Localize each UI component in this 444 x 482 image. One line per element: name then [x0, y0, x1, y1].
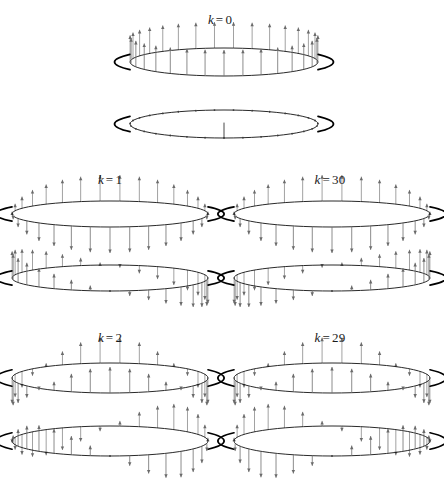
arrow-head-icon	[422, 223, 425, 227]
ring-node-dot	[277, 135, 279, 137]
arrow-head-icon	[238, 303, 241, 307]
ring-node-dot	[307, 117, 309, 119]
ring-ellipse	[234, 265, 430, 291]
arrow-head-icon	[360, 258, 363, 262]
arrow-head-icon	[156, 351, 159, 355]
panel-label-variable: k	[98, 172, 104, 187]
arrow-head-icon	[147, 246, 150, 250]
ring-node-dot	[269, 111, 271, 113]
arrow-head-icon	[369, 246, 372, 250]
arrow-head-icon	[179, 474, 182, 478]
arrow-head-icon	[164, 474, 167, 478]
ring-cap-right	[430, 271, 444, 285]
arrow-head-icon	[350, 249, 353, 253]
ring-diagram-canvas	[0, 0, 444, 482]
ring-node-dot	[132, 120, 134, 122]
ring-ellipse	[12, 426, 208, 456]
arrow-head-icon	[143, 43, 146, 47]
arrow-head-icon	[179, 237, 182, 241]
arrow-head-icon	[138, 412, 141, 416]
arrow-head-icon	[20, 197, 23, 201]
arrow-head-icon	[394, 184, 397, 188]
panel-k2-view2	[0, 404, 224, 478]
arrow-head-icon	[172, 404, 175, 408]
arrow-head-icon	[292, 246, 295, 250]
arrow-head-icon	[203, 425, 206, 429]
arrow-head-icon	[128, 249, 131, 253]
arrow-head-icon	[386, 242, 389, 246]
arrow-head-icon	[70, 374, 73, 378]
arrow-head-icon	[13, 250, 16, 254]
arrow-head-icon	[108, 249, 111, 253]
arrow-head-icon	[413, 426, 416, 430]
arrow-head-icon	[310, 41, 313, 45]
arrow-head-icon	[413, 394, 416, 398]
arrow-head-icon	[16, 429, 19, 433]
arrow-head-icon	[427, 216, 430, 220]
arrow-head-icon	[128, 462, 131, 466]
arrow-head-icon	[276, 47, 279, 51]
panel-label-k29: k=29	[270, 330, 390, 346]
arrow-head-icon	[292, 470, 295, 474]
ring-node-dot	[149, 115, 151, 117]
panel-k0-view2	[115, 109, 334, 139]
arrow-head-icon	[44, 251, 47, 255]
arrow-head-icon	[98, 428, 101, 432]
arrow-head-icon	[164, 300, 167, 304]
arrow-head-icon	[138, 270, 141, 274]
panel-k2-view1	[0, 338, 224, 406]
ring-node-dot	[331, 455, 333, 457]
ring-modes-figure: k=0 k=1 k=30 k=2 k=29	[0, 0, 444, 482]
arrow-head-icon	[200, 399, 203, 403]
ring-ellipse	[12, 201, 208, 227]
arrow-head-icon	[418, 197, 421, 201]
arrow-head-icon	[369, 280, 372, 284]
arrow-head-icon	[394, 251, 397, 255]
arrow-head-icon	[235, 296, 238, 300]
ring-cap-right	[318, 54, 333, 69]
arrow-head-icon	[205, 216, 208, 220]
arrow-head-icon	[172, 184, 175, 188]
ring-ellipse	[234, 201, 430, 227]
arrow-head-icon	[52, 274, 55, 278]
arrow-head-icon	[302, 43, 305, 47]
arrow-head-icon	[203, 50, 206, 54]
arrow-head-icon	[235, 425, 238, 429]
arrow-head-icon	[20, 451, 23, 455]
ring-node-dot	[109, 455, 111, 457]
arrow-head-icon	[290, 46, 293, 50]
arrow-head-icon	[350, 286, 353, 290]
arrow-head-icon	[108, 367, 111, 371]
ring-node-dot	[284, 112, 286, 114]
arrow-head-icon	[259, 237, 262, 241]
arrow-head-icon	[89, 446, 92, 450]
arrow-head-icon	[340, 262, 343, 266]
arrow-head-icon	[292, 296, 295, 300]
arrow-head-icon	[61, 351, 64, 355]
arrow-head-icon	[191, 394, 194, 398]
arrow-head-icon	[25, 426, 28, 430]
arrow-head-icon	[179, 302, 182, 306]
arrow-head-icon	[235, 394, 238, 398]
ring-node-dot	[214, 109, 216, 111]
arrow-head-icon	[422, 429, 425, 433]
ring-node-dot	[317, 122, 319, 124]
arrow-head-icon	[191, 303, 194, 307]
panel-label-value: 30	[332, 172, 345, 187]
ring-cap-right	[208, 370, 224, 387]
arrow-head-icon	[242, 197, 245, 201]
arrow-head-icon	[284, 25, 287, 29]
arrow-head-icon	[425, 394, 428, 398]
arrow-head-icon	[118, 421, 121, 425]
ring-node-dot	[331, 290, 333, 292]
panel-label-variable: k	[98, 330, 104, 345]
arrow-head-icon	[37, 425, 40, 429]
arrow-head-icon	[44, 184, 47, 188]
arrow-head-icon	[196, 292, 199, 296]
arrow-head-icon	[418, 451, 421, 455]
arrow-head-icon	[164, 242, 167, 246]
arrow-head-icon	[283, 276, 286, 280]
arrow-head-icon	[61, 254, 64, 258]
arrow-head-icon	[242, 292, 245, 296]
arrow-head-icon	[340, 428, 343, 432]
